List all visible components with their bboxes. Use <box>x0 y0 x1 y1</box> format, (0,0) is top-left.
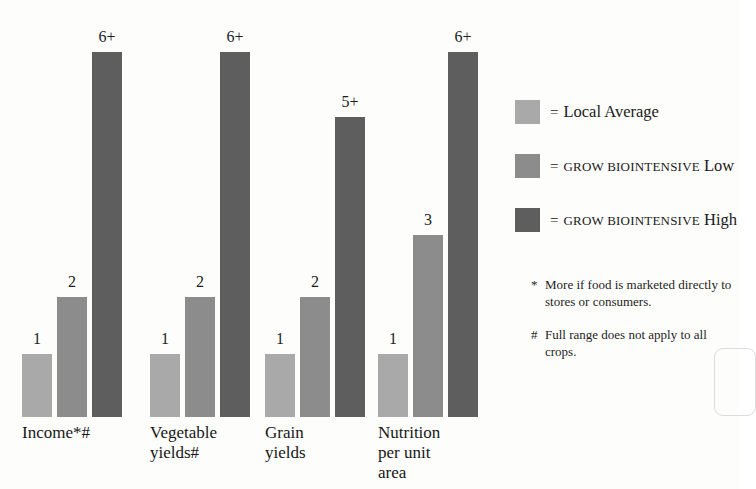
bar-value-label: 2 <box>196 274 204 290</box>
bar-column <box>57 297 87 417</box>
bar-value-label: 6+ <box>454 29 471 45</box>
bar-column <box>448 52 478 417</box>
bar-value-label: 6+ <box>98 29 115 45</box>
legend-equals-sign: = <box>550 158 558 175</box>
bar-column <box>22 354 52 417</box>
legend-label-2: GROW BIOINTENSIVE Low <box>563 156 734 176</box>
legend-swatch-local-average <box>515 100 540 124</box>
bar-value-label: 6+ <box>226 29 243 45</box>
footnote-text: More if food is marketed directly to sto… <box>545 276 736 311</box>
category-label-3: Grain yields <box>265 423 306 463</box>
footnote-2: #Full range does not apply to all crops. <box>531 326 736 361</box>
legend-equals-sign: = <box>550 212 558 229</box>
chart-legend: =Local Average=GROW BIOINTENSIVE Low=GRO… <box>515 100 739 262</box>
bar-column <box>335 117 365 417</box>
footnote-marker: # <box>531 326 545 361</box>
chart-footnotes: *More if food is marketed directly to st… <box>531 276 736 375</box>
bar-column <box>185 297 215 417</box>
bar-column <box>150 354 180 417</box>
legend-brand-name: GROW BIOINTENSIVE <box>563 213 699 228</box>
bar-value-label: 1 <box>161 331 169 347</box>
bar-column <box>413 235 443 417</box>
bar-value-label: 5+ <box>341 94 358 110</box>
legend-label-1: Local Average <box>563 102 658 122</box>
footnote-marker: * <box>531 276 545 311</box>
legend-level-name: Low <box>704 156 734 175</box>
legend-swatch-gb-high <box>515 208 540 232</box>
bar-column <box>265 354 295 417</box>
bar-column <box>92 52 122 417</box>
category-label-4: Nutrition per unit area <box>378 423 440 483</box>
bar-value-label: 2 <box>311 274 319 290</box>
bar-column <box>300 297 330 417</box>
bar-value-label: 3 <box>424 212 432 228</box>
legend-label-3: GROW BIOINTENSIVE High <box>563 210 737 230</box>
bar-value-label: 1 <box>389 331 397 347</box>
legend-level-name: High <box>704 210 737 229</box>
legend-equals-sign: = <box>550 104 558 121</box>
legend-item-2: =GROW BIOINTENSIVE Low <box>515 154 739 178</box>
legend-item-1: =Local Average <box>515 100 739 124</box>
category-label-2: Vegetable yields# <box>150 423 217 463</box>
legend-brand-name: GROW BIOINTENSIVE <box>563 159 699 174</box>
footnote-text: Full range does not apply to all crops. <box>545 326 736 361</box>
bar-chart-plot-area: 126+Income*#126+Vegetable yields#125+Gra… <box>0 0 510 489</box>
legend-level-name: Local Average <box>563 102 658 121</box>
bar-value-label: 2 <box>68 274 76 290</box>
bar-value-label: 1 <box>33 331 41 347</box>
legend-swatch-gb-low <box>515 154 540 178</box>
bar-column <box>220 52 250 417</box>
legend-item-3: =GROW BIOINTENSIVE High <box>515 208 739 232</box>
category-label-1: Income*# <box>22 423 90 443</box>
scan-edge-artifact <box>714 348 756 416</box>
bar-value-label: 1 <box>276 331 284 347</box>
footnote-1: *More if food is marketed directly to st… <box>531 276 736 311</box>
bar-column <box>378 354 408 417</box>
